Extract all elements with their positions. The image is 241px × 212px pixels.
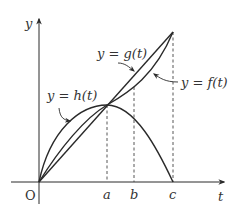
- curve-f-label: y = f(t): [180, 75, 228, 90]
- leader-g: [118, 63, 134, 71]
- leader-f: [154, 74, 178, 82]
- y-axis-label: y: [24, 16, 33, 31]
- origin-label: O: [25, 188, 36, 203]
- curve-g-label: y = g(t): [96, 46, 147, 61]
- tick-c-label: c: [169, 187, 177, 202]
- x-axis-label: t: [218, 189, 224, 204]
- curve-h-label: y = h(t): [46, 88, 97, 103]
- tick-b-label: b: [130, 187, 138, 202]
- graph-diagram: y t O a b c y = g(t) y = f(t) y = h(t): [0, 0, 241, 212]
- curve-h: [39, 105, 173, 182]
- tick-a-label: a: [103, 187, 111, 202]
- leader-h: [59, 108, 70, 121]
